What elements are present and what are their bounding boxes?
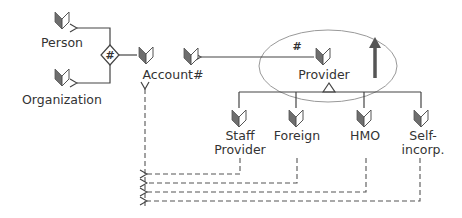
diamond-hash-label: # xyxy=(105,49,114,62)
book-icon xyxy=(357,110,371,127)
book-icon xyxy=(232,110,246,127)
node-label-line1: Self- xyxy=(409,128,436,143)
node-hmo[interactable]: HMO xyxy=(350,110,380,143)
node-label: Provider xyxy=(298,67,350,82)
node-provider[interactable]: Provider xyxy=(298,48,350,82)
book-icon xyxy=(184,48,198,65)
book-icon xyxy=(316,48,330,65)
node-label: Account# xyxy=(143,67,204,82)
node-organization[interactable]: Organization xyxy=(22,69,102,107)
node-staff-provider[interactable]: Staff Provider xyxy=(214,110,266,157)
provider-hash-label: # xyxy=(292,40,301,53)
diagram-canvas: # # Person Organization Account# xyxy=(0,0,462,218)
node-label-line2: Provider xyxy=(214,142,266,157)
diamond-connector: # xyxy=(77,28,137,83)
book-icon xyxy=(289,110,303,127)
book-icon xyxy=(139,47,153,64)
node-label: HMO xyxy=(350,128,380,143)
node-label-line2: incorp. xyxy=(402,142,445,157)
node-label: Foreign xyxy=(274,128,320,143)
node-foreign[interactable]: Foreign xyxy=(274,110,320,143)
node-self-incorp[interactable]: Self- incorp. xyxy=(402,110,445,157)
book-icon xyxy=(55,69,69,86)
node-label-line1: Staff xyxy=(225,128,254,143)
book-icon xyxy=(55,12,69,29)
up-arrow-icon xyxy=(369,37,381,78)
book-icon xyxy=(414,110,428,127)
node-label: Organization xyxy=(22,92,102,107)
node-person[interactable]: Person xyxy=(41,12,83,50)
node-label: Person xyxy=(41,35,83,50)
node-unlabeled[interactable] xyxy=(184,48,198,65)
dashed-dependencies xyxy=(145,89,420,206)
inheritance-tree xyxy=(239,83,421,108)
